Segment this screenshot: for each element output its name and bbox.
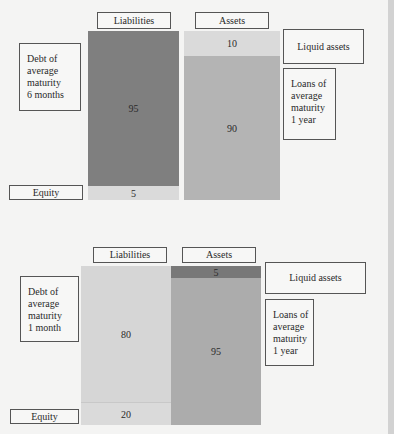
liquid-assets-segment: 10 <box>184 31 280 56</box>
debt-segment: 80 <box>81 266 171 402</box>
equity-segment: 5 <box>88 186 179 200</box>
equity-label-box: Equity <box>10 409 79 424</box>
loans-segment: 95 <box>171 278 261 425</box>
equity-value: 5 <box>131 188 136 199</box>
scrollbar-track[interactable] <box>388 0 394 434</box>
equity-value: 20 <box>121 409 131 420</box>
loans-value: 95 <box>211 346 221 357</box>
debt-label-box: Debt of average maturity 1 month <box>20 276 79 342</box>
liabilities-header: Liabilities <box>97 12 171 29</box>
loans-value: 90 <box>227 123 237 134</box>
debt-value: 95 <box>129 103 139 114</box>
debt-label-box: Debt of average maturity 6 months <box>19 43 81 111</box>
liquid-assets-label-box: Liquid assets <box>283 29 364 64</box>
liquid-assets-value: 5 <box>214 267 219 278</box>
debt-value: 80 <box>121 329 131 340</box>
loans-segment: 90 <box>184 56 280 200</box>
loans-label-box: Loans of average maturity 1 year <box>283 68 336 140</box>
equity-label-box: Equity <box>9 185 83 200</box>
debt-segment: 95 <box>88 31 179 186</box>
assets-header: Assets <box>195 12 269 29</box>
loans-label-box: Loans of average maturity 1 year <box>265 299 314 366</box>
equity-segment: 20 <box>81 402 171 425</box>
assets-header: Assets <box>182 247 256 263</box>
liquid-assets-label-box: Liquid assets <box>265 262 366 294</box>
liquid-assets-value: 10 <box>227 38 237 49</box>
liquid-assets-segment: 5 <box>171 266 261 278</box>
liabilities-header: Liabilities <box>93 247 167 263</box>
